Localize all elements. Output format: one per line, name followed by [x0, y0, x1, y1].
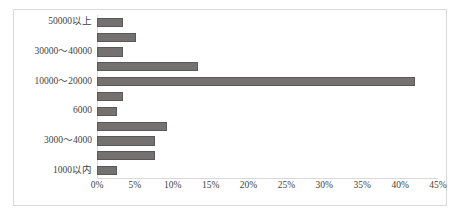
value-axis-tick-label: 10%: [164, 181, 181, 191]
category-axis-label: 6000: [73, 106, 92, 116]
chart-frame: 50000以上30000～4000010000～2000060003000～40…: [13, 9, 447, 206]
category-axis-label: 1000以内: [53, 166, 92, 176]
bar[interactable]: [97, 47, 123, 56]
value-axis-tick-label: 15%: [202, 181, 219, 191]
category-axis-label: 30000～40000: [35, 47, 93, 57]
value-axis-tick-label: 20%: [240, 181, 257, 191]
value-axis-line: [97, 178, 438, 179]
bar[interactable]: [97, 122, 167, 131]
value-axis-tick-label: 5%: [129, 181, 142, 191]
bar-row: [97, 136, 438, 145]
category-axis-label: 50000以上: [48, 17, 92, 27]
bar-row: [97, 92, 438, 101]
bar[interactable]: [97, 107, 117, 116]
category-axis-labels: 50000以上30000～4000010000～2000060003000～40…: [14, 15, 92, 178]
bar[interactable]: [97, 92, 123, 101]
bar-row: [97, 77, 438, 86]
bar[interactable]: [97, 33, 136, 42]
bar-row: [97, 151, 438, 160]
bar-row: [97, 47, 438, 56]
value-axis-tick-label: 25%: [278, 181, 295, 191]
bar-row: [97, 166, 438, 175]
category-axis-label: 3000～4000: [44, 136, 92, 146]
plot-area: [97, 15, 438, 178]
value-axis-tick-label: 45%: [429, 181, 446, 191]
bar-row: [97, 18, 438, 27]
bar-row: [97, 62, 438, 71]
value-axis-tick-label: 35%: [354, 181, 371, 191]
category-axis-label: 10000～20000: [35, 77, 93, 87]
bar[interactable]: [97, 77, 415, 86]
bar[interactable]: [97, 18, 123, 27]
bar[interactable]: [97, 166, 117, 175]
value-axis-tick-label: 30%: [316, 181, 333, 191]
bar[interactable]: [97, 151, 155, 160]
value-axis-tick-label: 40%: [391, 181, 408, 191]
bar-row: [97, 33, 438, 42]
bar-row: [97, 122, 438, 131]
value-axis-tick-label: 0%: [91, 181, 104, 191]
bar[interactable]: [97, 136, 155, 145]
bar[interactable]: [97, 62, 198, 71]
value-axis-tick-labels: 0%5%10%15%20%25%30%35%40%45%: [97, 181, 438, 195]
bar-row: [97, 107, 438, 116]
